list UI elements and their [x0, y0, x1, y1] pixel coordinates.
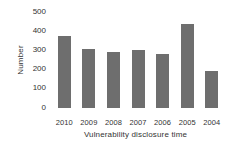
bar [181, 24, 194, 108]
x-tick-slot: 2008 [101, 111, 126, 123]
y-tick-label: 100 [22, 84, 46, 92]
bar-slot [150, 12, 175, 108]
y-tick-label: 300 [22, 46, 46, 54]
y-axis-ticks: 500 400 300 200 100 0 [22, 0, 46, 149]
x-tick-slot: 2009 [77, 111, 102, 123]
bar [205, 71, 218, 108]
bar-slot [175, 12, 200, 108]
x-tick-slot: 2010 [52, 111, 77, 123]
x-tick-label: 2005 [179, 118, 196, 127]
bar-slot [199, 12, 224, 108]
y-tick-label: 500 [22, 8, 46, 16]
x-tick-slot: 2004 [199, 111, 224, 123]
x-tick-label: 2004 [203, 118, 220, 127]
plot-area [48, 12, 228, 108]
bar [82, 49, 95, 108]
x-tick-slot: 2005 [175, 111, 200, 123]
y-tick-label: 0 [22, 104, 46, 112]
bar [132, 50, 145, 108]
bar-chart: Number 500 400 300 200 100 0 2010 2009 2… [0, 0, 241, 149]
bar [107, 52, 120, 108]
x-tick-label: 2010 [56, 118, 73, 127]
bar-slot [126, 12, 151, 108]
x-tick-label: 2009 [80, 118, 97, 127]
x-axis-ticks: 2010 2009 2008 2007 2006 2005 2004 [48, 111, 228, 123]
bar-series [48, 12, 228, 108]
y-tick-label: 400 [22, 27, 46, 35]
bar-slot [101, 12, 126, 108]
y-tick-label: 200 [22, 65, 46, 73]
x-tick-label: 2008 [105, 118, 122, 127]
x-tick-slot: 2006 [150, 111, 175, 123]
x-tick-label: 2007 [129, 118, 146, 127]
x-tick-slot: 2007 [126, 111, 151, 123]
bar [58, 36, 71, 108]
bar-slot [52, 12, 77, 108]
bar [156, 54, 169, 108]
x-tick-label: 2006 [154, 118, 171, 127]
x-axis-title: Vulnerability disclosure time [0, 130, 241, 140]
bar-slot [77, 12, 102, 108]
